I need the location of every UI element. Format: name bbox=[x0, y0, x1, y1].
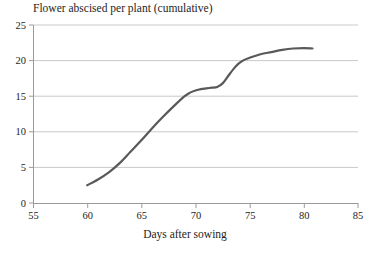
x-tick-label-80: 80 bbox=[291, 210, 317, 221]
data-series-line bbox=[87, 48, 312, 185]
chart-container: Flower abscised per plant (cumulative) bbox=[0, 0, 370, 254]
y-tick-label-0: 0 bbox=[0, 198, 26, 209]
gridlines bbox=[33, 25, 358, 167]
x-tick-label-70: 70 bbox=[183, 210, 209, 221]
x-tick-label-55: 55 bbox=[21, 210, 47, 221]
x-axis-title: Days after sowing bbox=[0, 228, 370, 241]
y-tick-label-15: 15 bbox=[0, 91, 26, 102]
y-tick-label-5: 5 bbox=[0, 162, 26, 173]
y-tick-label-10: 10 bbox=[0, 126, 26, 137]
x-tick-label-75: 75 bbox=[237, 210, 263, 221]
y-tick-label-20: 20 bbox=[0, 55, 26, 66]
x-tick-label-60: 60 bbox=[75, 210, 101, 221]
y-tick-label-25: 25 bbox=[0, 20, 26, 31]
x-tick-label-65: 65 bbox=[129, 210, 155, 221]
y-axis-ticks bbox=[29, 25, 33, 203]
x-tick-label-85: 85 bbox=[345, 210, 370, 221]
